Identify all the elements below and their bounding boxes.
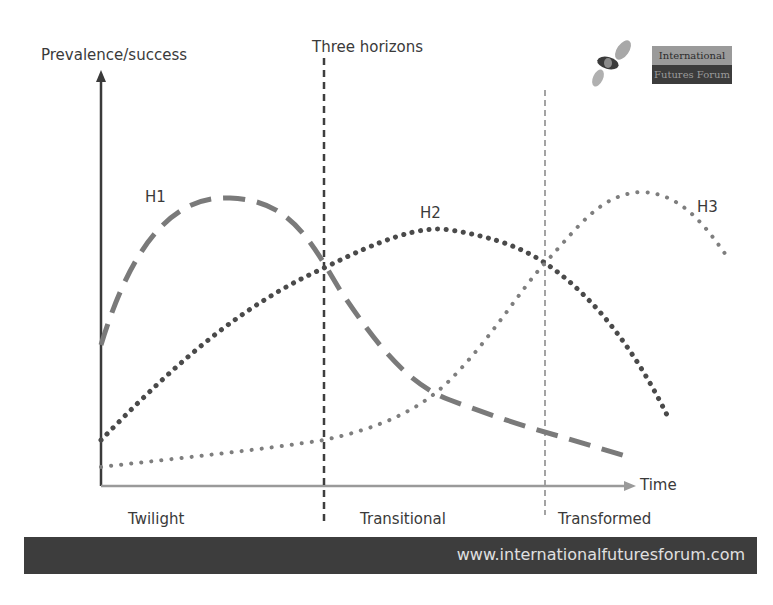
iff-logo: International Futures Forum	[582, 36, 737, 96]
y-axis-arrow-icon	[96, 70, 106, 82]
h1-label: H1	[145, 188, 166, 206]
y-axis-label: Prevalence/success	[41, 46, 187, 64]
h2-label: H2	[420, 204, 441, 222]
bee-icon	[582, 36, 642, 96]
h1-curve	[101, 198, 632, 458]
era-label-twilight: Twilight	[128, 510, 184, 528]
x-axis-arrow-icon	[624, 481, 636, 491]
h3-label: H3	[697, 198, 718, 216]
logo-text-line2: Futures Forum	[652, 65, 732, 84]
chart-title: Three horizons	[312, 38, 423, 56]
x-axis-label: Time	[640, 476, 677, 494]
logo-text-line1: International	[652, 46, 732, 65]
era-label-transformed: Transformed	[558, 510, 651, 528]
footer-url: www.internationalfuturesforum.com	[457, 545, 745, 564]
footer-banner: www.internationalfuturesforum.com	[24, 537, 757, 574]
h2-curve	[101, 229, 668, 440]
h3-curve	[101, 192, 728, 467]
era-label-transitional: Transitional	[360, 510, 446, 528]
